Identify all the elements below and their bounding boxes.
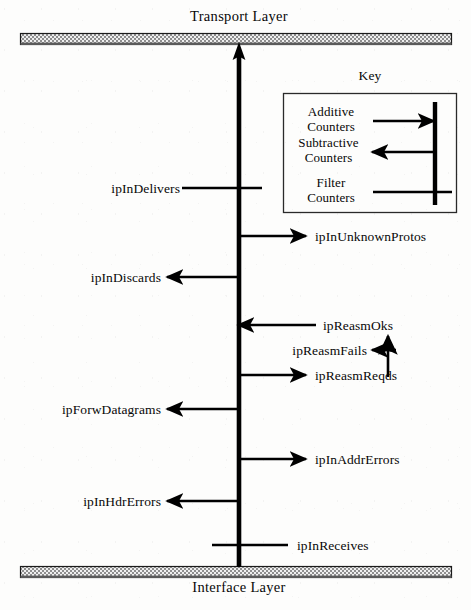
key-label-filter-line1: Filter bbox=[288, 176, 374, 191]
key-title: Key bbox=[328, 68, 412, 83]
key-label-additive: Additive Counters bbox=[288, 105, 374, 134]
label-ipForwDatagrams: ipForwDatagrams bbox=[18, 402, 161, 417]
key-label-additive-line2: Counters bbox=[288, 120, 374, 135]
key-label-subtractive: Subtractive Counters bbox=[283, 136, 374, 165]
key-label-subtractive-line1: Subtractive bbox=[283, 136, 374, 151]
key-label-additive-line1: Additive bbox=[288, 105, 374, 120]
label-ipReasmOks: ipReasmOks bbox=[323, 318, 393, 333]
label-ipInDiscards: ipInDiscards bbox=[18, 270, 161, 285]
transport-layer-title: Transport Layer bbox=[151, 9, 327, 24]
diagram-vector-layer bbox=[0, 0, 471, 610]
label-ipInUnknownProtos: ipInUnknownProtos bbox=[315, 229, 426, 244]
interface-layer-title: Interface Layer bbox=[151, 580, 327, 595]
interface-layer-bar bbox=[21, 567, 452, 579]
label-ipInReceives: ipInReceives bbox=[297, 538, 369, 553]
key-label-subtractive-line2: Counters bbox=[283, 151, 374, 166]
transport-layer-bar bbox=[21, 34, 452, 46]
key-label-filter: Filter Counters bbox=[288, 176, 374, 205]
label-ipReasmReqds: ipReasmReqds bbox=[315, 368, 397, 383]
ip-datagram-flow-trunk bbox=[233, 42, 246, 567]
label-ipInDelivers: ipInDelivers bbox=[18, 181, 180, 196]
label-ipInHdrErrors: ipInHdrErrors bbox=[18, 494, 161, 509]
label-ipReasmFails: ipReasmFails bbox=[210, 343, 367, 358]
key-label-filter-line2: Counters bbox=[288, 191, 374, 206]
label-ipInAddrErrors: ipInAddrErrors bbox=[315, 452, 400, 467]
ip-counter-diagram: Transport Layer Interface Layer Key Addi… bbox=[0, 0, 471, 610]
